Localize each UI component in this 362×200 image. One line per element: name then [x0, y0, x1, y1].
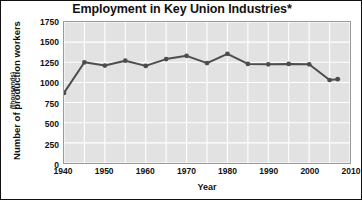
x-tick-label: 1960 [136, 166, 155, 176]
y-tick-label: 500 [3, 119, 59, 129]
x-axis-tick-labels: 19401950196019701980199020002010 [63, 166, 351, 180]
chart-figure: Employment in Key Union Industries* Numb… [0, 0, 362, 200]
y-tick-label: 750 [3, 99, 59, 109]
x-tick-label: 1970 [177, 166, 196, 176]
x-tick-label: 1990 [259, 166, 278, 176]
y-tick-label: 1500 [3, 37, 59, 47]
x-tick-label: 2000 [300, 166, 319, 176]
plot-area [63, 21, 351, 164]
data-series-line [64, 22, 350, 163]
y-tick-label: 1250 [3, 58, 59, 68]
chart-title: Employment in Key Union Industries* [1, 2, 362, 16]
y-axis-tick-labels: 17501500125010007505002500 [1, 21, 59, 164]
x-tick-label: 1940 [54, 166, 73, 176]
y-tick-label: 0 [3, 160, 59, 170]
y-tick-label: 1000 [3, 78, 59, 88]
x-tick-label: 2010 [342, 166, 361, 176]
y-tick-label: 1750 [3, 17, 59, 27]
x-tick-label: 1980 [218, 166, 237, 176]
y-tick-label: 250 [3, 140, 59, 150]
x-axis-title: Year [63, 182, 351, 192]
x-tick-label: 1950 [95, 166, 114, 176]
